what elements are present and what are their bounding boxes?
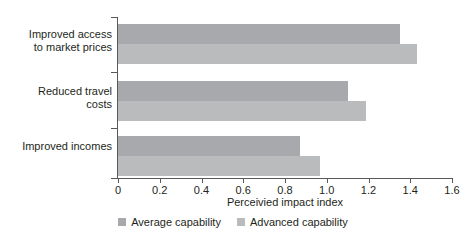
x-axis-tick-label: 1.6 [444,184,459,196]
x-axis-tick-label: 1.0 [319,184,334,196]
bar [118,156,320,176]
x-axis-tick-label: 0.8 [277,184,292,196]
bar [118,44,417,64]
category-label-line: Improved access [0,28,112,41]
x-axis-tick [243,178,244,183]
x-axis-tick [327,178,328,183]
x-axis-tick [369,178,370,183]
x-axis-tick [160,178,161,183]
bar [118,101,366,121]
legend-label: Average capability [131,216,221,228]
legend-label: Advanced capability [250,216,348,228]
category-labels: Improved access to market prices Reduced… [0,0,112,243]
x-axis-tick-label: 0.4 [194,184,209,196]
y-axis-tick [111,72,117,73]
legend-swatch-icon [118,218,126,226]
x-axis-tick [452,178,453,183]
x-axis-tick [285,178,286,183]
chart-legend: Average capability Advanced capability [0,216,466,228]
category-label-line: Reduced travel [0,85,112,98]
x-axis-tick-label: 0.6 [236,184,251,196]
y-axis-tick [111,128,117,129]
legend-item-advanced-capability: Advanced capability [237,216,348,228]
category-label-reduced-travel-costs: Reduced travel costs [0,85,112,111]
category-label-improved-access: Improved access to market prices [0,28,112,54]
x-axis-tick-label: 0 [115,184,121,196]
bar [118,136,300,156]
bar [118,24,400,44]
x-axis-title: Perceivied impact index [118,196,452,208]
category-label-improved-incomes: Improved incomes [0,140,112,153]
x-axis-tick-label: 1.2 [361,184,376,196]
x-axis-tick [118,178,119,183]
legend-item-average-capability: Average capability [118,216,221,228]
bar-chart: Improved access to market prices Reduced… [0,0,466,243]
category-label-line: to market prices [0,41,112,54]
x-axis-tick-label: 0.2 [152,184,167,196]
x-axis-tick [202,178,203,183]
legend-swatch-icon [237,218,245,226]
y-axis-tick [111,17,117,18]
x-axis-tick [410,178,411,183]
y-axis-tick [111,178,117,179]
bar [118,81,348,101]
x-axis-tick-label: 1.4 [403,184,418,196]
category-label-line: costs [0,98,112,111]
category-label-line: Improved incomes [0,140,112,153]
